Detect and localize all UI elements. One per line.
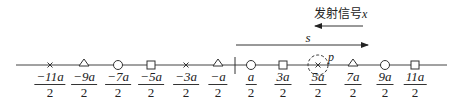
denominator: 2: [412, 85, 419, 100]
s-label: s: [305, 31, 310, 44]
denominator: 2: [47, 85, 54, 100]
numerator: −a: [208, 70, 227, 85]
square-marker-icon: [279, 61, 287, 69]
denominator: 2: [280, 85, 287, 100]
point-label: 7a2: [345, 70, 362, 100]
numerator: −3a: [173, 70, 199, 85]
denominator: 2: [183, 85, 190, 100]
numerator: 9a: [377, 70, 394, 85]
numerator: 7a: [345, 70, 362, 85]
denominator: 2: [248, 85, 255, 100]
p-label: p: [328, 51, 334, 64]
triangle-marker-icon: [348, 59, 358, 66]
signal-label: 发射信号x: [314, 7, 367, 21]
denominator: 2: [148, 85, 155, 100]
point-label: −3a2: [173, 70, 199, 100]
point-label: −a2: [208, 70, 227, 100]
denominator: 2: [215, 85, 222, 100]
point-label: −5a2: [138, 70, 164, 100]
triangle-marker-icon: [213, 59, 223, 66]
point-label: 5a2: [310, 70, 327, 100]
denominator: 2: [115, 85, 122, 100]
point-label: 3a2: [275, 70, 292, 100]
numerator: a: [246, 70, 257, 85]
numerator: −5a: [138, 70, 164, 85]
point-label: 9a2: [377, 70, 394, 100]
denominator: 2: [81, 85, 88, 100]
point-label: 11a2: [404, 70, 427, 100]
numerator: −9a: [71, 70, 97, 85]
denominator: 2: [382, 85, 389, 100]
square-marker-icon: [411, 61, 419, 69]
denominator: 2: [350, 85, 357, 100]
point-label: −9a2: [71, 70, 97, 100]
denominator: 2: [315, 85, 322, 100]
square-marker-icon: [147, 61, 155, 69]
numerator: −11a: [34, 70, 65, 85]
point-label: −7a2: [105, 70, 131, 100]
triangle-marker-icon: [79, 59, 89, 66]
point-label: a2: [246, 70, 257, 100]
numerator: 3a: [275, 70, 292, 85]
numerator: 11a: [404, 70, 427, 85]
point-label: −11a2: [34, 70, 65, 100]
numerator: −7a: [105, 70, 131, 85]
numerator: 5a: [310, 70, 327, 85]
